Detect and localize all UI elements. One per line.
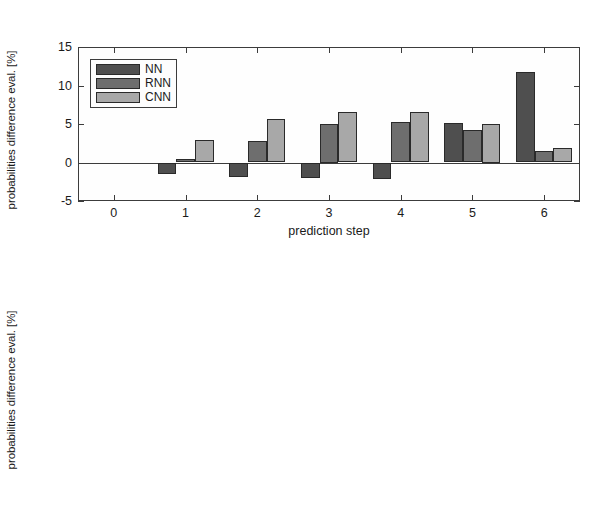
legend-swatch-nn [96, 64, 140, 75]
bar-rnn-step-2 [248, 141, 267, 163]
y-tick-label: 0 [65, 156, 72, 170]
y-axis-title-bottom: probabilities difference eval. [%] [0, 260, 24, 519]
x-tick-mark [186, 195, 187, 201]
bar-rnn-step-6 [535, 151, 554, 163]
legend-label-cnn: CNN [145, 92, 171, 103]
x-tick-label: 4 [397, 206, 404, 220]
x-tick-mark-top [472, 47, 473, 53]
y-tick-mark [78, 163, 84, 164]
bar-nn-step-2 [229, 163, 248, 178]
y-tick-label: -5 [61, 194, 72, 208]
x-tick-mark [401, 195, 402, 201]
legend-swatch-rnn [96, 78, 140, 89]
bar-nn-step-5 [444, 123, 463, 162]
x-tick-mark-top [329, 47, 330, 53]
x-tick-label: 0 [110, 206, 117, 220]
x-tick-mark-top [114, 47, 115, 53]
x-tick-mark-top [544, 47, 545, 53]
x-tick-mark-top [401, 47, 402, 53]
bar-cnn-step-2 [267, 119, 286, 162]
bar-nn-step-4 [373, 163, 392, 179]
bar-cnn-step-4 [410, 112, 429, 162]
y-tick-mark [78, 124, 84, 125]
bar-cnn-step-5 [482, 124, 501, 163]
x-tick-label: 6 [541, 206, 548, 220]
x-tick-mark [472, 195, 473, 201]
legend-item-nn: NN [96, 64, 171, 75]
legend-top: NNRNNCNN [90, 59, 177, 108]
x-tick-mark-top [257, 47, 258, 53]
x-tick-label: 2 [254, 206, 261, 220]
bar-rnn-step-1 [176, 159, 195, 162]
y-tick-mark-right [574, 47, 580, 48]
bar-rnn-step-3 [320, 124, 339, 163]
legend-item-cnn: CNN [96, 92, 171, 103]
bar-cnn-step-1 [195, 140, 214, 162]
x-axis-title-top: prediction step [288, 224, 369, 238]
chart-panel-top: probabilities difference eval. [%] 15105… [0, 0, 604, 260]
legend-swatch-cnn [96, 92, 140, 103]
x-tick-mark [329, 195, 330, 201]
bar-nn-step-1 [158, 163, 177, 175]
x-tick-mark [544, 195, 545, 201]
chart-panel-bottom: probabilities difference eval. [%] 100-1… [0, 260, 604, 519]
y-tick-mark-right [574, 124, 580, 125]
y-tick-label: 5 [65, 117, 72, 131]
y-tick-mark-right [574, 201, 580, 202]
figure-two-bar-charts: probabilities difference eval. [%] 15105… [0, 0, 604, 519]
x-tick-label: 3 [326, 206, 333, 220]
x-tick-label: 1 [182, 206, 189, 220]
y-axis-title-top: probabilities difference eval. [%] [0, 0, 24, 260]
y-tick-mark [78, 201, 84, 202]
y-tick-mark-right [574, 163, 580, 164]
legend-item-rnn: RNN [96, 78, 171, 89]
legend-label-rnn: RNN [145, 78, 171, 89]
bar-cnn-step-6 [553, 148, 572, 163]
bar-rnn-step-4 [391, 122, 410, 163]
y-tick-mark [78, 47, 84, 48]
zero-line [78, 163, 580, 164]
bar-nn-step-3 [301, 163, 320, 178]
y-tick-label: 10 [58, 79, 72, 93]
x-tick-label: 5 [469, 206, 476, 220]
y-tick-mark-right [574, 86, 580, 87]
x-tick-mark [114, 195, 115, 201]
bar-nn-step-6 [516, 72, 535, 162]
x-tick-mark [257, 195, 258, 201]
y-tick-mark [78, 86, 84, 87]
legend-label-nn: NN [145, 64, 162, 75]
x-tick-mark-top [186, 47, 187, 53]
plot-area-top: 151050-50123456 prediction step NNRNNCNN [78, 47, 580, 201]
y-tick-label: 15 [58, 40, 72, 54]
bar-rnn-step-5 [463, 130, 482, 162]
bar-cnn-step-3 [338, 112, 357, 163]
